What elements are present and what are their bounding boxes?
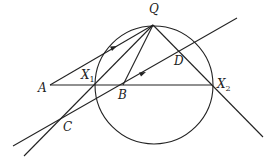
label-x1: X1 xyxy=(81,69,95,84)
label-b: B xyxy=(118,89,127,101)
label-x2: X2 xyxy=(217,78,231,93)
label-d: D xyxy=(174,55,184,67)
arrow-icon-aq xyxy=(110,46,117,51)
arrow-icon-cb xyxy=(139,72,146,77)
line-q-x2-extended xyxy=(153,25,263,137)
geometry-diagram: Q A X1 B X2 C D xyxy=(0,0,275,168)
label-x2-main: X xyxy=(217,77,226,91)
label-x1-main: X xyxy=(81,68,90,82)
label-x2-sub: 2 xyxy=(226,84,231,93)
label-x1-sub: 1 xyxy=(90,75,95,84)
label-a: A xyxy=(38,82,47,94)
label-c: C xyxy=(63,121,72,133)
label-q: Q xyxy=(149,3,159,15)
